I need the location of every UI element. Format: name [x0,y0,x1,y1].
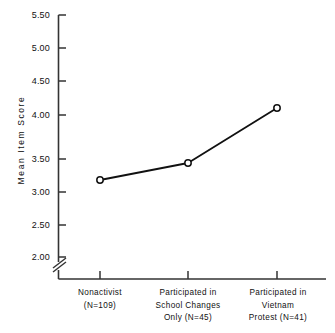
data-line-mean-item-score [100,108,277,180]
x-category-line-1: Participated in [222,287,334,300]
data-point-vietnam-protest [274,105,280,111]
x-category-line-2: Vietnam [222,300,334,313]
x-category-line-3: Protest (N=41) [222,312,334,325]
x-category-label-vietnam-protest: Participated in Vietnam Protest (N=41) [222,287,334,325]
data-point-school-changes [185,160,191,166]
chart-container: Mean Item Score 5.50 5.00 4.50 4.00 3.50… [0,0,335,333]
plot-area [0,0,335,333]
data-point-nonactivist [97,177,103,183]
